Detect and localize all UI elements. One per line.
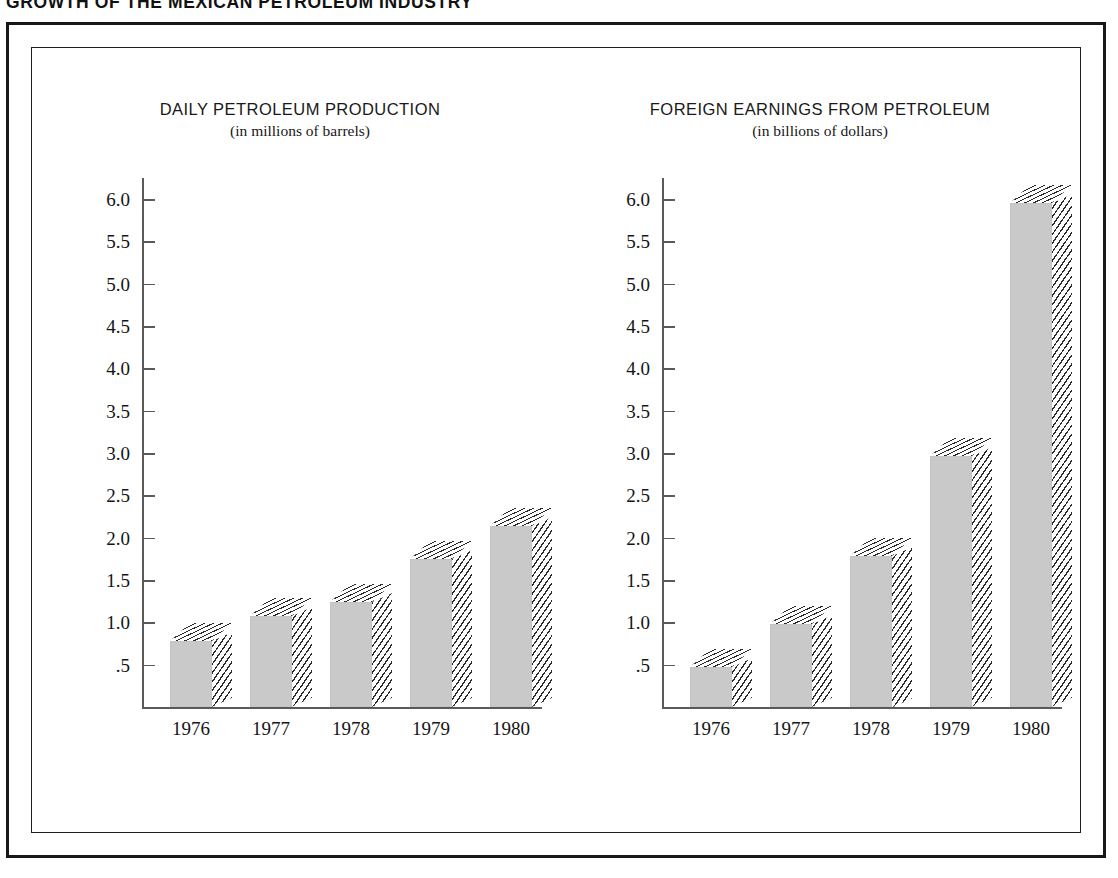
- bar-front-face: [170, 641, 212, 707]
- y-tick-label: 1.5: [590, 571, 650, 590]
- y-tick-label: 4.0: [70, 359, 130, 378]
- y-tick: [144, 284, 155, 286]
- y-tick-label: 4.5: [590, 317, 650, 336]
- bar-side-face: [452, 550, 472, 707]
- y-tick: [664, 411, 675, 413]
- y-tick-label: 6.0: [590, 190, 650, 209]
- x-tick-label: 1977: [226, 718, 316, 740]
- y-tick: [664, 241, 675, 243]
- y-tick-label: .5: [70, 656, 130, 675]
- x-tick-label: 1976: [666, 718, 756, 740]
- y-axis-line: [142, 178, 144, 708]
- bar-side-face: [532, 517, 552, 707]
- y-tick: [144, 199, 155, 201]
- bar: [850, 534, 914, 708]
- y-tick: [664, 580, 675, 582]
- plot-area: 6.05.55.04.54.03.53.02.52.01.51.0.5 1976…: [40, 178, 560, 738]
- y-tick: [664, 495, 675, 497]
- bar: [930, 434, 994, 707]
- y-tick: [664, 284, 675, 286]
- y-tick-label: 1.5: [70, 571, 130, 590]
- bar-front-face: [770, 624, 812, 707]
- y-tick-label: 3.0: [70, 444, 130, 463]
- x-tick-label: 1977: [746, 718, 836, 740]
- y-tick: [144, 665, 155, 667]
- chart-title: DAILY PETROLEUM PRODUCTION: [40, 100, 560, 119]
- bar-front-face: [850, 556, 892, 708]
- y-tick-label: 3.5: [590, 402, 650, 421]
- y-tick-label: 2.5: [590, 486, 650, 505]
- bar-front-face: [410, 559, 452, 707]
- bar-front-face: [490, 526, 532, 707]
- bar: [490, 504, 554, 707]
- chart-daily-petroleum-production: DAILY PETROLEUM PRODUCTION (in millions …: [40, 100, 560, 760]
- bar-front-face: [690, 667, 732, 707]
- y-tick: [144, 368, 155, 370]
- y-tick-label: .5: [590, 656, 650, 675]
- bar-front-face: [330, 602, 372, 707]
- bar: [690, 645, 754, 707]
- bar: [1010, 181, 1074, 707]
- y-tick: [144, 538, 155, 540]
- x-tick-label: 1976: [146, 718, 236, 740]
- y-tick-label: 6.0: [70, 190, 130, 209]
- chart-title: FOREIGN EARNINGS FROM PETROLEUM: [560, 100, 1080, 119]
- chart-foreign-earnings-from-petroleum: FOREIGN EARNINGS FROM PETROLEUM (in bill…: [560, 100, 1080, 760]
- y-tick-label: 5.5: [590, 232, 650, 251]
- plot-area: 6.05.55.04.54.03.53.02.52.01.51.0.5 1976…: [560, 178, 1080, 738]
- bar: [250, 594, 314, 707]
- y-tick-label: 1.0: [70, 613, 130, 632]
- x-tick-label: 1978: [826, 718, 916, 740]
- bar: [170, 619, 234, 707]
- y-tick: [664, 665, 675, 667]
- bar-side-face: [292, 608, 312, 707]
- x-tick-label: 1978: [306, 718, 396, 740]
- y-tick-label: 3.0: [590, 444, 650, 463]
- bar-side-face: [892, 547, 912, 707]
- x-axis-line: [142, 707, 542, 709]
- y-tick-label: 2.0: [590, 529, 650, 548]
- chart-subtitle: (in billions of dollars): [560, 122, 1080, 140]
- bar-side-face: [972, 448, 992, 707]
- y-tick: [664, 368, 675, 370]
- y-axis-line: [662, 178, 664, 708]
- x-axis-line: [662, 707, 1062, 709]
- bar-side-face: [812, 615, 832, 707]
- y-tick: [144, 453, 155, 455]
- y-tick: [664, 326, 675, 328]
- bar-side-face: [372, 593, 392, 707]
- y-tick-label: 5.0: [70, 275, 130, 294]
- y-tick: [144, 622, 155, 624]
- y-tick: [664, 538, 675, 540]
- x-tick-label: 1979: [386, 718, 476, 740]
- y-tick-label: 2.5: [70, 486, 130, 505]
- bar-side-face: [732, 658, 752, 707]
- y-tick: [144, 411, 155, 413]
- y-tick: [664, 453, 675, 455]
- bar: [330, 580, 394, 707]
- x-tick-label: 1979: [906, 718, 996, 740]
- y-tick-label: 5.0: [590, 275, 650, 294]
- bar-side-face: [1052, 195, 1072, 707]
- y-tick-label: 3.5: [70, 402, 130, 421]
- y-tick: [144, 580, 155, 582]
- y-tick: [144, 495, 155, 497]
- bar-front-face: [250, 616, 292, 707]
- x-tick-label: 1980: [466, 718, 556, 740]
- bar-front-face: [930, 456, 972, 707]
- y-tick-label: 4.5: [70, 317, 130, 336]
- y-tick-label: 5.5: [70, 232, 130, 251]
- bar-side-face: [212, 632, 232, 707]
- x-tick-label: 1980: [986, 718, 1076, 740]
- y-tick: [664, 199, 675, 201]
- chart-subtitle: (in millions of barrels): [40, 122, 560, 140]
- charts-container: DAILY PETROLEUM PRODUCTION (in millions …: [0, 0, 1118, 878]
- y-tick-label: 4.0: [590, 359, 650, 378]
- y-tick: [144, 326, 155, 328]
- y-tick: [144, 241, 155, 243]
- bar: [410, 537, 474, 707]
- y-tick-label: 1.0: [590, 613, 650, 632]
- y-tick: [664, 622, 675, 624]
- bar: [770, 602, 834, 707]
- y-tick-label: 2.0: [70, 529, 130, 548]
